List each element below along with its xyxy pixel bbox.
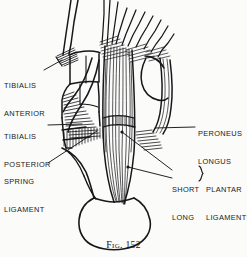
calcaneus-tuberosity (66, 150, 96, 199)
tibialis-anterior-insertion-hatching (56, 48, 78, 66)
label-long: LONG (172, 213, 199, 222)
label-tibialis-anterior-line1: TIBIALIS (4, 81, 45, 90)
tibia-shaft (63, 0, 78, 55)
label-spring-ligament: SPRING LIGAMENT (4, 158, 45, 233)
label-plantar-ligaments-line2: LIGAMENTS (206, 213, 247, 222)
tibialis-posterior-tendon (63, 58, 99, 132)
label-peroneus-longus-line1: PERONEUS (198, 129, 242, 138)
label-tibialis-posterior-line1: TIBIALIS (4, 132, 51, 141)
peroneal-insertion-hatching (136, 130, 162, 150)
leader-spring-ligament (48, 131, 97, 163)
label-spring-ligament-line2: LIGAMENT (4, 205, 45, 214)
leader-short (122, 132, 172, 170)
figure-caption-prefix: Fig. (106, 239, 123, 250)
anatomical-figure: TIBIALIS ANTERIOR TIBIALIS POSTERIOR SPR… (0, 0, 247, 257)
leader-peroneus-longus (155, 127, 195, 128)
leader-tibialis-anterior (44, 60, 62, 70)
label-short-long: SHORT LONG (172, 166, 199, 241)
figure-caption-number: 152 (125, 239, 140, 250)
label-short: SHORT (172, 185, 199, 194)
label-plantar-ligaments: PLANTAR LIGAMENTS (206, 166, 247, 241)
label-plantar-ligaments-line1: PLANTAR (206, 185, 247, 194)
lateral-malleolus-outline (141, 56, 168, 100)
leader-long (128, 167, 172, 178)
extensor-tendons-splayed (102, 0, 174, 57)
label-spring-ligament-line1: SPRING (4, 177, 45, 186)
figure-caption: Fig. 152 (0, 239, 247, 250)
